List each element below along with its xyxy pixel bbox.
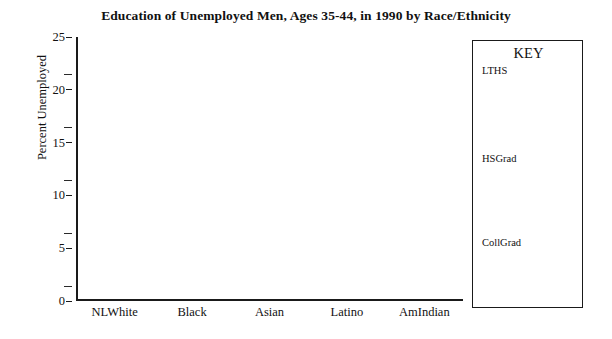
- x-axis-category-label: NLWhite: [76, 305, 153, 325]
- y-axis-major-tick-mark: [66, 195, 72, 196]
- y-axis-tick-label: 0: [16, 295, 72, 308]
- y-axis-minor-tick-mark: [16, 221, 72, 237]
- legend-entry: LTHS: [482, 65, 507, 76]
- y-axis-minor-tick-glyph: [64, 127, 72, 128]
- x-axis-category-label: Latino: [308, 305, 385, 325]
- legend-heading: KEY: [473, 45, 584, 62]
- x-axis-category-label: Asian: [231, 305, 308, 325]
- y-axis-minor-tick-glyph: [64, 233, 72, 234]
- y-axis-tick-label: 5: [16, 242, 72, 255]
- legend-entry: CollGrad: [482, 237, 521, 248]
- y-axis-ticks: 0510152025: [8, 37, 72, 301]
- y-axis-tick-label: 20: [16, 84, 72, 97]
- legend-key-box: KEY LTHSHSGradCollGrad: [472, 40, 583, 308]
- x-axis-category-label: Black: [153, 305, 230, 325]
- y-axis-tick-value: 20: [53, 83, 66, 97]
- y-axis-minor-tick-glyph: [64, 180, 72, 181]
- y-axis-minor-tick-glyph: [64, 286, 72, 287]
- y-axis-minor-tick-mark: [16, 115, 72, 131]
- y-axis-tick-label: 25: [16, 31, 72, 44]
- y-axis-major-tick-mark: [66, 89, 72, 90]
- x-axis-tick-labels: NLWhiteBlackAsianLatinoAmIndian: [76, 305, 463, 325]
- y-axis-tick-value: 5: [59, 241, 65, 255]
- y-axis-tick-value: 0: [59, 294, 65, 308]
- y-axis-tick-value: 25: [53, 30, 66, 44]
- y-axis-minor-tick-mark: [16, 168, 72, 184]
- y-axis-line: [76, 37, 78, 301]
- chart-figure: Education of Unemployed Men, Ages 35-44,…: [0, 0, 612, 339]
- chart-title: Education of Unemployed Men, Ages 35-44,…: [0, 8, 612, 24]
- y-axis-major-tick-mark: [66, 37, 72, 38]
- y-axis-minor-tick-mark: [16, 274, 72, 290]
- y-axis-major-tick-mark: [66, 248, 72, 249]
- x-axis-line: [76, 299, 463, 301]
- y-axis-tick-value: 15: [53, 136, 66, 150]
- legend-entry: HSGrad: [482, 153, 516, 164]
- y-axis-minor-tick-mark: [16, 62, 72, 78]
- y-axis-tick-label: 10: [16, 189, 72, 202]
- y-axis-tick-label: 15: [16, 137, 72, 150]
- y-axis-tick-value: 10: [53, 188, 66, 202]
- x-axis-category-label: AmIndian: [386, 305, 463, 325]
- y-axis-minor-tick-glyph: [64, 74, 72, 75]
- y-axis-major-tick-mark: [66, 301, 72, 302]
- plot-area: [76, 37, 462, 300]
- y-axis-major-tick-mark: [66, 142, 72, 143]
